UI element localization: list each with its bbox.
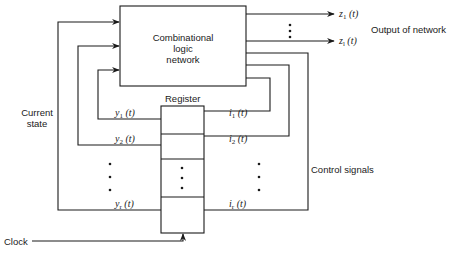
- register-label: Register: [165, 93, 200, 104]
- current-state-label: Current state: [18, 107, 56, 129]
- output-z1-label: z1 (t): [339, 8, 358, 23]
- control-ir-line: [204, 53, 308, 210]
- current-state-line1: Current: [18, 107, 56, 118]
- control-signals-label: Control signals: [311, 164, 374, 175]
- control-i1-label: i1 (t): [229, 107, 247, 122]
- state-y1-label: y1 (t): [115, 107, 135, 122]
- combinational-logic-label: Combinational logic network: [130, 32, 236, 65]
- state-y2-label: y2 (t): [115, 133, 135, 148]
- clock-line: [32, 234, 183, 241]
- register-box: [161, 106, 204, 233]
- combinational-label-line2: logic: [130, 43, 236, 54]
- output-zl-label: zl (t): [339, 35, 357, 50]
- control-i2-label: i2 (t): [229, 133, 247, 148]
- output-of-network-label: Output of network: [371, 24, 446, 35]
- control-ir-label: ir (t): [229, 198, 246, 213]
- current-state-line2: state: [18, 118, 56, 129]
- clock-label: Clock: [4, 236, 28, 247]
- state-yr-label: yr (t): [115, 198, 134, 213]
- combinational-label-line1: Combinational: [130, 32, 236, 43]
- combinational-label-line3: network: [130, 54, 236, 65]
